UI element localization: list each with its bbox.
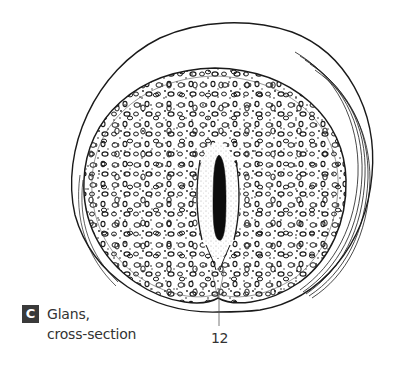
caption-line-1: Glans,	[47, 304, 136, 324]
callout-12-label: 12	[211, 330, 228, 346]
urethral-slit	[213, 155, 226, 240]
caption-text: Glans, cross-section	[47, 304, 136, 344]
caption-line-2: cross-section	[47, 324, 136, 344]
panel-letter-badge: C	[22, 305, 39, 323]
figure-caption: C Glans, cross-section	[22, 304, 136, 344]
